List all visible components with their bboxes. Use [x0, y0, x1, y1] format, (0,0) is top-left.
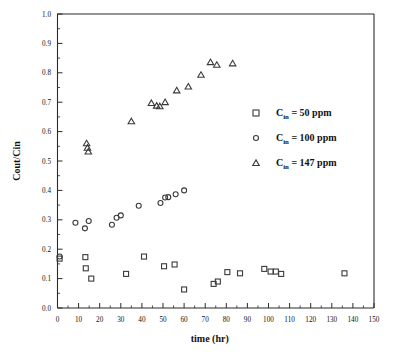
- x-tick-label: 40: [138, 316, 146, 324]
- series-triangle: [83, 59, 235, 154]
- y-tick-label: 0.9: [42, 40, 51, 48]
- legend-label: Cin = 100 ppm: [276, 132, 337, 145]
- x-tick-label: 150: [369, 316, 380, 324]
- y-tick-label: 0.8: [42, 69, 51, 77]
- x-tick-labels: 0102030405060708090100110120130140150: [56, 316, 380, 324]
- data-point: [172, 262, 177, 267]
- data-point: [109, 222, 114, 227]
- data-point: [148, 100, 154, 106]
- x-tick-label: 100: [263, 316, 274, 324]
- data-point: [158, 201, 163, 206]
- y-tick-label: 0.2: [42, 246, 51, 254]
- data-point: [207, 59, 213, 65]
- x-tick-label: 0: [56, 316, 60, 324]
- data-point: [262, 266, 267, 271]
- data-point: [173, 87, 179, 93]
- legend-marker-triangle-icon: [253, 160, 259, 166]
- series-square: [57, 254, 347, 292]
- x-tick-label: 120: [305, 316, 316, 324]
- data-point: [225, 270, 230, 275]
- data-point: [162, 99, 168, 105]
- data-point: [83, 140, 89, 146]
- data-point: [162, 264, 167, 269]
- data-point: [238, 271, 243, 276]
- scatter-plot-figure: 0102030405060708090100110120130140150 0.…: [0, 0, 396, 359]
- y-tick-label: 1.0: [42, 11, 51, 19]
- data-point: [182, 287, 187, 292]
- data-point: [273, 269, 278, 274]
- data-point: [118, 213, 123, 218]
- legend-marker-circle-icon: [254, 136, 259, 141]
- y-tick-label: 0.4: [42, 187, 51, 195]
- data-point: [173, 192, 178, 197]
- data-point: [73, 220, 78, 225]
- data-point: [83, 266, 88, 271]
- x-tick-label: 140: [348, 316, 359, 324]
- data-point: [185, 83, 191, 89]
- y-tick-label: 0.7: [42, 99, 51, 107]
- y-tick-label: 0.0: [42, 305, 51, 313]
- data-point: [182, 188, 187, 193]
- data-point: [279, 271, 284, 276]
- data-point: [82, 226, 87, 231]
- y-axis-title: Cout/Cin: [11, 141, 22, 181]
- x-tick-label: 130: [326, 316, 337, 324]
- x-tick-label: 70: [202, 316, 210, 324]
- legend-entry: Cin = 100 ppm: [254, 132, 338, 145]
- data-points-layer: [57, 59, 347, 292]
- data-point: [83, 255, 88, 260]
- x-tick-label: 10: [75, 316, 83, 324]
- data-point: [142, 254, 147, 259]
- chart-legend: Cin = 50 ppmCin = 100 ppmCin = 147 ppm: [253, 107, 337, 170]
- y-tick-label: 0.3: [42, 216, 51, 224]
- data-point: [268, 269, 273, 274]
- data-point: [86, 218, 91, 223]
- data-point: [198, 72, 204, 78]
- x-axis-title: time (hr): [191, 333, 229, 345]
- x-tick-label: 90: [244, 316, 252, 324]
- data-point: [166, 195, 171, 200]
- y-tick-label: 0.6: [42, 128, 51, 136]
- plot-canvas: 0102030405060708090100110120130140150 0.…: [0, 0, 396, 359]
- legend-entry: Cin = 147 ppm: [253, 157, 337, 170]
- x-tick-label: 60: [181, 316, 189, 324]
- data-point: [229, 60, 235, 66]
- data-point: [214, 62, 220, 68]
- data-point: [128, 118, 134, 124]
- data-point: [89, 276, 94, 281]
- y-tick-labels: 0.00.10.20.30.40.50.60.70.80.91.0: [42, 11, 51, 313]
- x-tick-label: 50: [159, 316, 167, 324]
- series-circle: [57, 188, 186, 259]
- data-point: [136, 203, 141, 208]
- legend-entry: Cin = 50 ppm: [253, 107, 332, 120]
- x-tick-label: 110: [284, 316, 295, 324]
- legend-marker-square-icon: [253, 110, 259, 116]
- x-tick-label: 20: [96, 316, 104, 324]
- x-tick-label: 80: [223, 316, 231, 324]
- legend-label: Cin = 50 ppm: [276, 107, 332, 120]
- x-tick-label: 30: [117, 316, 125, 324]
- y-tick-label: 0.5: [42, 158, 51, 166]
- data-point: [124, 271, 129, 276]
- y-tick-label: 0.1: [42, 275, 51, 283]
- data-point: [342, 271, 347, 276]
- legend-label: Cin = 147 ppm: [276, 157, 337, 170]
